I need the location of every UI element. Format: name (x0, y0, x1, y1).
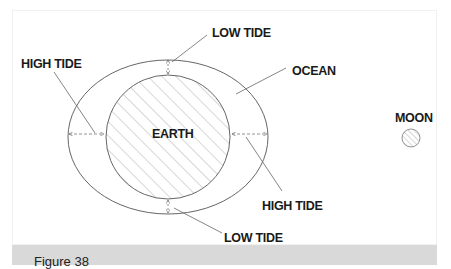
label-high-tide-right: HIGH TIDE (262, 199, 323, 213)
tide-diagram: LOW TIDE HIGH TIDE OCEAN EARTH MOON HIGH… (0, 0, 451, 245)
moon-circle (402, 129, 420, 147)
label-high-tide-left: HIGH TIDE (21, 57, 82, 71)
leader-low-tide-bottom (174, 208, 222, 233)
label-moon: MOON (395, 111, 433, 125)
leader-low-tide-top (172, 35, 207, 62)
label-earth: EARTH (152, 127, 194, 141)
label-ocean: OCEAN (292, 64, 336, 78)
leader-ocean (236, 68, 286, 94)
leader-high-tide-left (54, 72, 95, 133)
leader-high-tide-right (246, 137, 282, 191)
caption-bar: Figure 38 (12, 245, 437, 265)
label-low-tide-bottom: LOW TIDE (224, 231, 283, 245)
label-low-tide-top: LOW TIDE (212, 26, 271, 40)
figure-caption: Figure 38 (34, 255, 89, 268)
